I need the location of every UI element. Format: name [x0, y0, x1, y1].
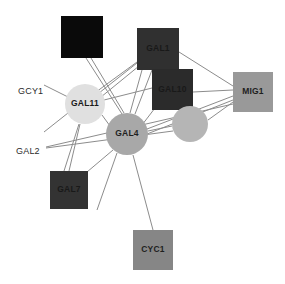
- edge-GAL11-to-upper_right: [99, 63, 137, 93]
- network-graph-svg: GAL1GAL10MIG1GAL11GAL4GAL7CYC1 GCY1GAL2: [0, 0, 285, 284]
- edge-GAL4-to-GAL7: [87, 150, 113, 172]
- node-unlabeled_circle[interactable]: [172, 106, 208, 142]
- edge-GAL7-to-GAL11_b: [64, 124, 79, 171]
- node-label-GAL10: GAL10: [158, 84, 186, 94]
- external-labels-layer: GCY1GAL2: [16, 86, 43, 156]
- node-MIG1[interactable]: MIG1: [233, 72, 273, 112]
- edge-GAL11-to-GCY1: [44, 85, 68, 97]
- edge-GAL10-to-GAL11: [104, 88, 152, 100]
- node-CYC1[interactable]: CYC1: [133, 230, 173, 270]
- network-diagram-canvas: GAL1GAL10MIG1GAL11GAL4GAL7CYC1 GCY1GAL2: [0, 0, 285, 284]
- external-label-GAL2: GAL2: [16, 146, 40, 156]
- edge-GAL11-to-left_low: [44, 113, 68, 132]
- node-label-GAL4: GAL4: [115, 128, 139, 138]
- node-GAL7[interactable]: GAL7: [50, 171, 88, 209]
- external-label-GCY1: GCY1: [18, 86, 43, 96]
- node-GAL11[interactable]: GAL11: [65, 84, 105, 124]
- edge-GAL11-to-GAL7: [69, 124, 80, 171]
- node-unlabeled_black[interactable]: [61, 16, 103, 58]
- edge-GAL4-to-CYC1: [133, 155, 153, 230]
- node-GAL1[interactable]: GAL1: [137, 28, 179, 70]
- node-GAL4[interactable]: GAL4: [106, 113, 148, 155]
- node-label-GAL11: GAL11: [71, 98, 99, 108]
- node-GAL10[interactable]: GAL10: [152, 69, 193, 110]
- node-shape-square-unlabeled_black[interactable]: [61, 16, 103, 58]
- node-label-CYC1: CYC1: [141, 244, 165, 254]
- node-label-GAL7: GAL7: [57, 184, 81, 194]
- node-label-GAL1: GAL1: [146, 43, 170, 53]
- edge-GAL10-to-MIG1: [193, 90, 233, 92]
- node-label-MIG1: MIG1: [242, 86, 264, 96]
- node-shape-circle-unlabeled_circle[interactable]: [172, 106, 208, 142]
